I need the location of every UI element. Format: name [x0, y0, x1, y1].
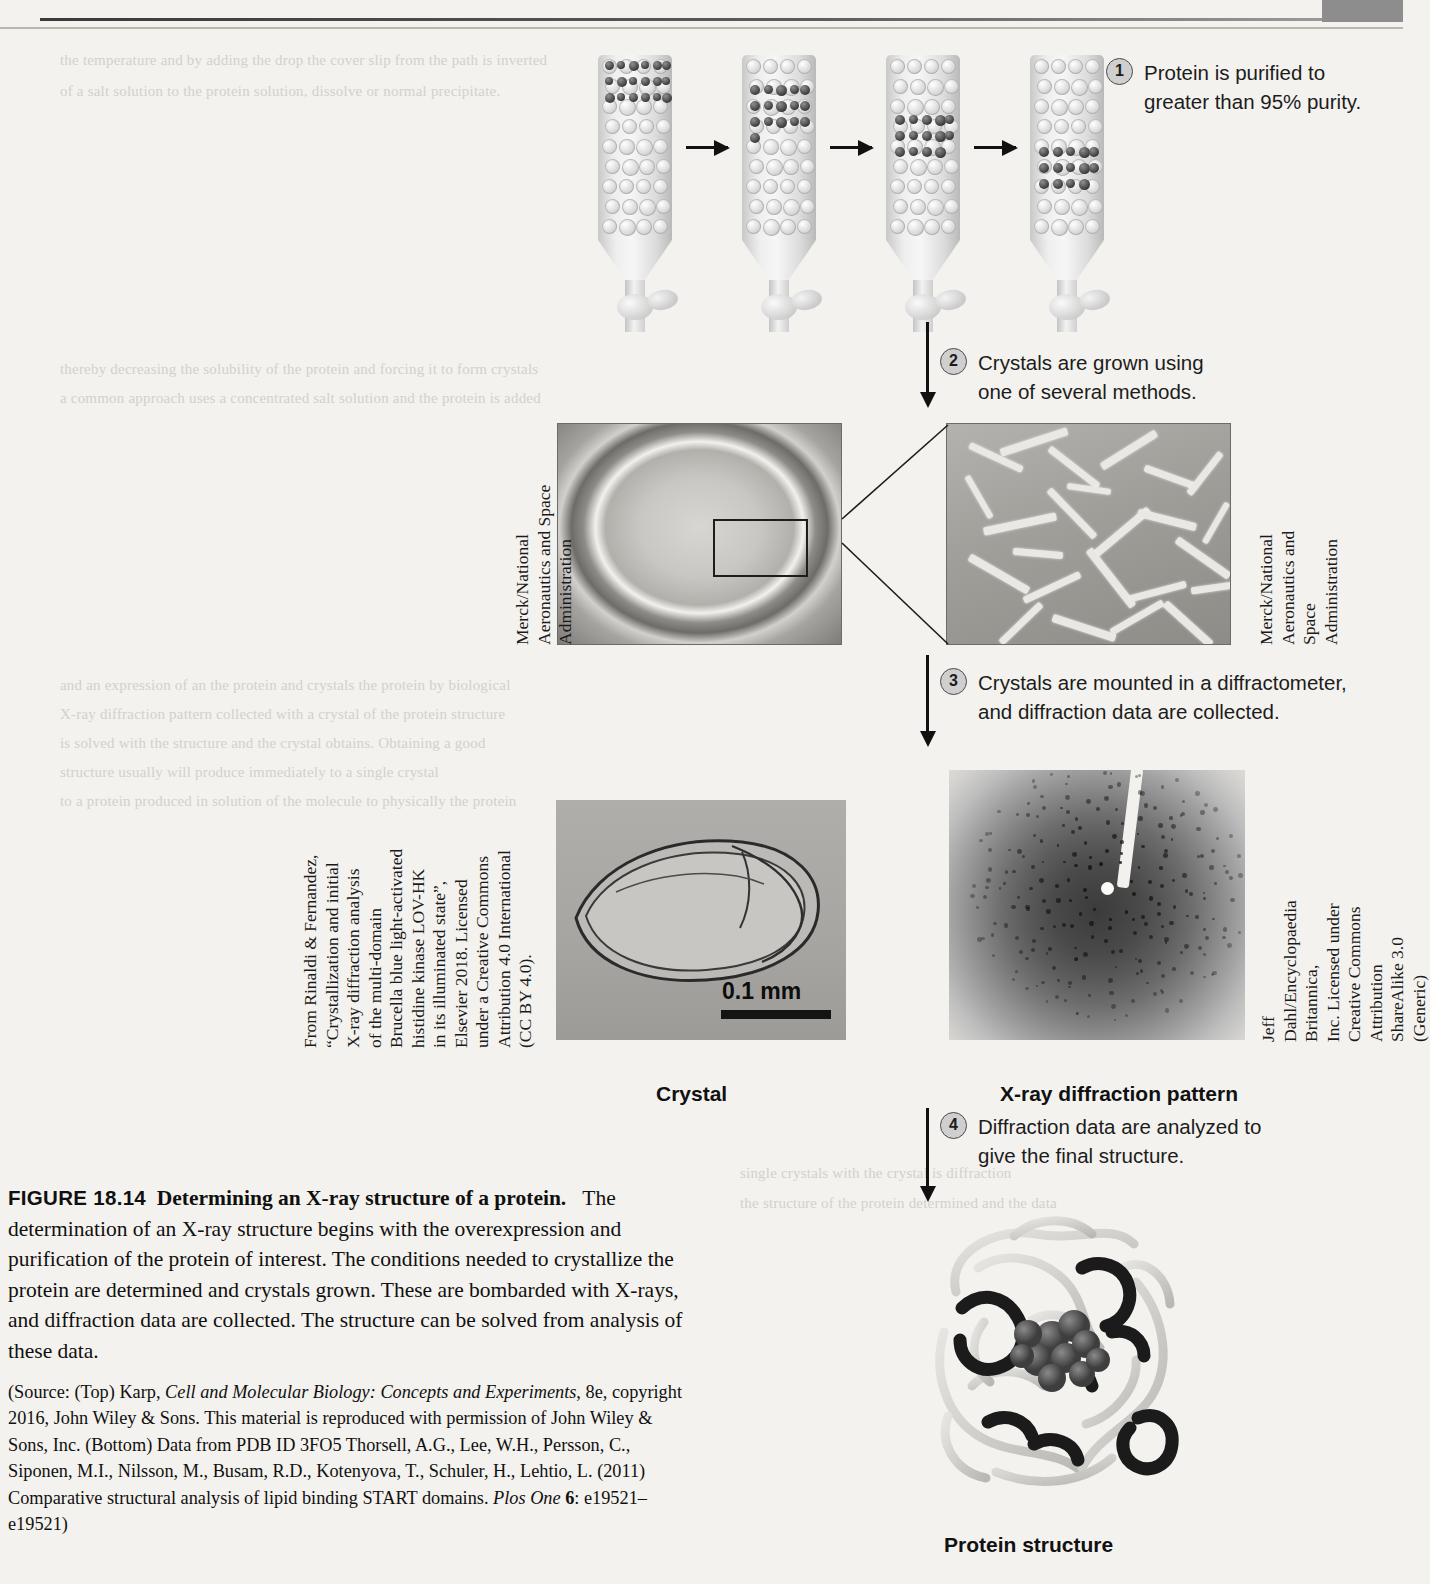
- resin-bead: [639, 119, 654, 134]
- diffraction-spot: [1093, 908, 1096, 911]
- resin-bead: [944, 199, 959, 214]
- resin-bead: [780, 179, 795, 194]
- resin-bead: [1037, 119, 1052, 134]
- diffraction-spot: [1115, 808, 1118, 811]
- resin-bead: [1054, 79, 1070, 95]
- beam-center: [1101, 882, 1114, 895]
- diffraction-spot: [1189, 892, 1193, 896]
- diffraction-spot: [1040, 795, 1043, 798]
- protein-particle: [605, 77, 613, 85]
- xray-photo-credit: Jeff Dahl/Encyclopaedia Britannica, Inc.…: [1258, 897, 1430, 1042]
- diffraction-spot: [976, 906, 979, 909]
- diffraction-spot: [1138, 959, 1142, 963]
- step-4-text: Diffraction data are analyzed to give th…: [978, 1112, 1261, 1170]
- diffraction-spot: [1161, 925, 1164, 928]
- protein-crystal-needle: [1191, 581, 1231, 595]
- resin-bead: [910, 79, 926, 95]
- protein-particle: [629, 77, 637, 85]
- resin-bead: [653, 219, 668, 234]
- resin-bead: [893, 199, 908, 214]
- protein-particle: [1089, 147, 1099, 157]
- protein-particle: [1053, 147, 1063, 157]
- diffraction-spot: [1076, 1012, 1080, 1016]
- diffraction-spot: [1200, 810, 1205, 815]
- scale-bar: [721, 1010, 831, 1019]
- diffraction-spot: [1036, 815, 1039, 818]
- resin-bead: [1054, 119, 1069, 134]
- diffraction-spot: [970, 894, 974, 898]
- diffraction-spot: [1171, 824, 1176, 829]
- diffraction-spot: [1089, 856, 1092, 859]
- diffraction-spot: [1172, 879, 1175, 882]
- ghost-line: thereby decreasing the solubility of the…: [60, 356, 538, 382]
- resin-bead: [907, 99, 924, 116]
- diffraction-spot: [1211, 973, 1215, 977]
- diffraction-spot: [1108, 926, 1111, 929]
- step-3-text: Crystals are mounted in a diffractometer…: [978, 668, 1347, 726]
- diffraction-spot: [1042, 861, 1045, 864]
- diffraction-spot: [1096, 807, 1100, 811]
- resin-bead: [797, 179, 812, 194]
- diffraction-spot: [1138, 816, 1143, 821]
- diffraction-spot: [1169, 921, 1174, 926]
- diffraction-spot: [1125, 1014, 1128, 1017]
- diffraction-spot: [1229, 876, 1233, 880]
- protein-particle: [764, 101, 773, 110]
- resin-bead: [622, 119, 637, 134]
- figure-number: FIGURE 18.14: [8, 1186, 146, 1209]
- diffraction-spot: [1072, 852, 1077, 857]
- diffraction-spot: [1108, 785, 1112, 789]
- diffraction-spot: [1108, 978, 1113, 983]
- diffraction-spot: [1171, 838, 1173, 840]
- protein-crystal-needle: [998, 602, 1043, 645]
- diffraction-spot: [1041, 981, 1044, 984]
- step-3-callout: 3 Crystals are mounted in a diffractomet…: [940, 668, 1347, 726]
- diffraction-spot: [1017, 896, 1020, 899]
- source-journal: Plos One: [493, 1488, 561, 1508]
- drop-photo-credit: Merck/National Aeronautics and Space Adm…: [512, 485, 577, 645]
- resin-bead: [941, 99, 956, 114]
- diffraction-spot: [1112, 834, 1117, 839]
- resin-bead: [602, 139, 617, 154]
- diffraction-spot: [1190, 971, 1194, 975]
- diffraction-spot: [1114, 1019, 1116, 1021]
- diffraction-spot: [988, 848, 992, 852]
- diffraction-spot: [1203, 928, 1206, 931]
- resin-bead: [800, 199, 815, 214]
- diffraction-spot: [1120, 852, 1123, 855]
- resin-bead: [1034, 219, 1049, 234]
- diffraction-spot: [1111, 1004, 1116, 1009]
- protein-particle: [800, 117, 810, 127]
- diffraction-spot: [1048, 947, 1052, 951]
- diffraction-spot: [1068, 986, 1071, 989]
- resin-bead: [944, 159, 959, 174]
- protein-particle: [617, 61, 625, 69]
- diffraction-spot: [1135, 958, 1137, 960]
- protein-particle: [1066, 179, 1075, 188]
- diffraction-spot: [1074, 864, 1077, 867]
- protein-particle: [641, 93, 650, 102]
- protein-particle: [922, 147, 932, 157]
- protein-crystal-needle: [968, 554, 1031, 595]
- resin-bead: [927, 159, 943, 175]
- diffraction-spot: [1120, 840, 1124, 844]
- page-header-divider: [0, 27, 1403, 29]
- resin-bead: [890, 99, 905, 114]
- protein-crystal-needle: [1086, 547, 1137, 609]
- resin-bead: [1034, 59, 1049, 74]
- protein-particle: [790, 117, 799, 126]
- resin-bead: [1054, 199, 1070, 215]
- protein-particle: [750, 133, 760, 143]
- resin-bead: [1088, 79, 1103, 94]
- protein-particle: [629, 61, 639, 71]
- diffraction-spot: [1140, 791, 1145, 796]
- diffraction-spot: [1160, 989, 1163, 992]
- step-4-callout: 4 Diffraction data are analyzed to give …: [940, 1112, 1261, 1170]
- diffraction-spot: [1029, 887, 1032, 890]
- protein-particle: [750, 101, 760, 111]
- diffraction-spot: [1238, 873, 1243, 878]
- diffraction-spot: [1161, 835, 1165, 839]
- resin-bead: [1051, 99, 1068, 116]
- diffraction-spot: [1003, 882, 1006, 885]
- diffraction-spot: [1203, 892, 1206, 895]
